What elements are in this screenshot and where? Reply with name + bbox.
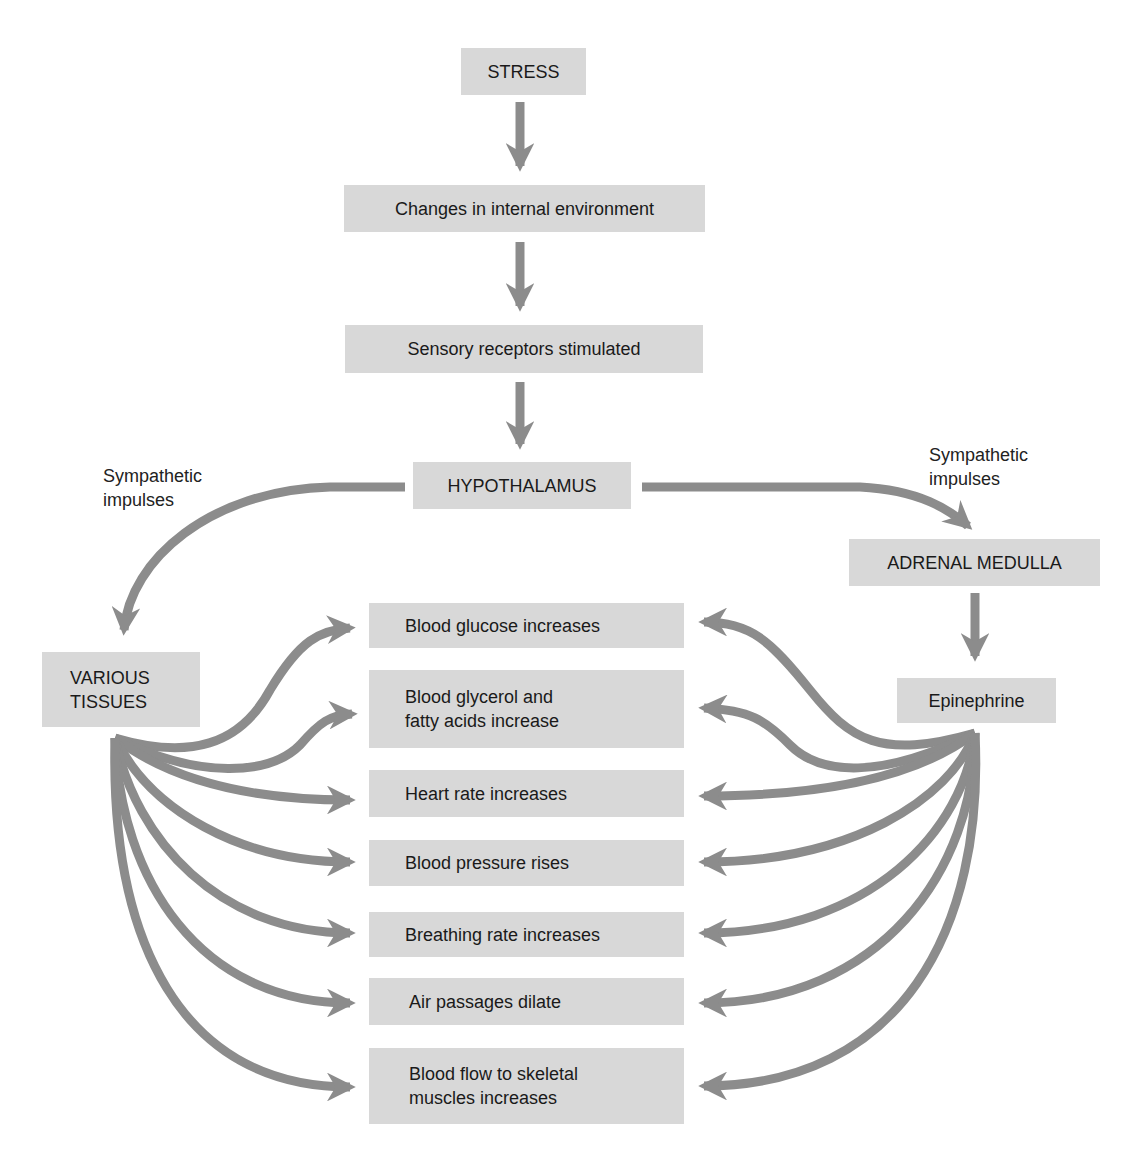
effect-label: Blood glycerol and fatty acids increase <box>405 685 559 733</box>
node-changes-label: Changes in internal environment <box>395 197 654 221</box>
node-stress-label: STRESS <box>487 60 559 84</box>
edge-label-right-sympathetic: Sympathetic impulses <box>929 443 1028 491</box>
effect-label: Breathing rate increases <box>405 923 600 947</box>
edge-label-left-sympathetic: Sympathetic impulses <box>103 464 202 512</box>
node-hypothalamus: HYPOTHALAMUS <box>413 462 631 509</box>
effect-blood-glucose: Blood glucose increases <box>369 603 684 648</box>
node-changes-internal-environment: Changes in internal environment <box>344 185 705 232</box>
effect-blood-flow-skeletal: Blood flow to skeletal muscles increases <box>369 1048 684 1124</box>
node-hypothalamus-label: HYPOTHALAMUS <box>447 474 596 498</box>
effect-air-passages: Air passages dilate <box>369 978 684 1025</box>
node-epinephrine: Epinephrine <box>897 678 1056 723</box>
node-adrenal-medulla-label: ADRENAL MEDULLA <box>887 551 1061 575</box>
arrow-hypothalamus-to-adrenal <box>642 487 968 526</box>
node-adrenal-medulla: ADRENAL MEDULLA <box>849 539 1100 586</box>
effect-label: Blood flow to skeletal muscles increases <box>409 1062 578 1110</box>
node-various-tissues: VARIOUS TISSUES <box>42 652 200 727</box>
effect-label: Air passages dilate <box>409 990 561 1014</box>
effect-breathing-rate: Breathing rate increases <box>369 912 684 957</box>
node-stress: STRESS <box>461 48 586 95</box>
effect-label: Blood pressure rises <box>405 851 569 875</box>
effect-blood-pressure: Blood pressure rises <box>369 840 684 886</box>
effect-label: Heart rate increases <box>405 782 567 806</box>
effect-blood-glycerol: Blood glycerol and fatty acids increase <box>369 670 684 748</box>
node-sensory-label: Sensory receptors stimulated <box>407 337 640 361</box>
node-sensory-receptors: Sensory receptors stimulated <box>345 325 703 373</box>
effect-heart-rate: Heart rate increases <box>369 770 684 817</box>
node-epinephrine-label: Epinephrine <box>928 689 1024 713</box>
stress-response-diagram: STRESS Changes in internal environment S… <box>0 0 1145 1171</box>
effect-label: Blood glucose increases <box>405 614 600 638</box>
node-various-tissues-label: VARIOUS TISSUES <box>70 666 150 714</box>
